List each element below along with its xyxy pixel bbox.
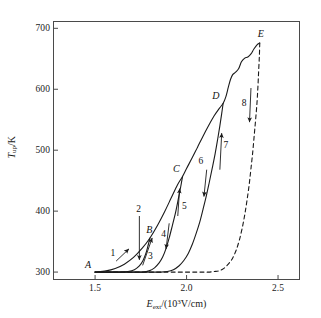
- arrow-label-4: 4: [161, 229, 166, 239]
- point-label-C: C: [173, 164, 180, 174]
- y-axis-rest: /K: [6, 136, 17, 146]
- x-axis-subscript: ext: [153, 303, 162, 311]
- direction-arrow-8: [250, 88, 251, 122]
- plot-canvas: [0, 0, 321, 318]
- arrow-label-1: 1: [110, 248, 115, 258]
- arrow-label-7: 7: [223, 140, 228, 150]
- y-axis-symbol: T: [6, 153, 17, 159]
- arrow-label-6: 6: [199, 156, 204, 166]
- x-axis-rest-open: /(10: [161, 298, 177, 309]
- chart-figure: 300400500600700 1.52.02.5 ABCDE12345678 …: [0, 0, 321, 318]
- arrow-label-5: 5: [182, 201, 187, 211]
- x-axis-title: Eext/(103V/cm): [53, 296, 300, 313]
- point-label-A: A: [85, 260, 91, 270]
- arrow-label-8: 8: [242, 98, 247, 108]
- arrow-label-3: 3: [148, 251, 153, 261]
- y-axis-title: Tup/K: [6, 112, 21, 182]
- point-label-E: E: [258, 29, 264, 39]
- direction-arrow-7: [220, 133, 222, 170]
- point-label-D: D: [212, 91, 219, 101]
- x-axis-rest-close: V/cm): [181, 298, 207, 309]
- point-label-B: B: [146, 225, 152, 235]
- direction-arrow-6: [204, 170, 207, 197]
- arrow-label-2: 2: [136, 204, 141, 214]
- y-axis-subscript: up: [10, 146, 18, 153]
- data-curve-5: [95, 43, 260, 272]
- data-curve-1: [95, 43, 260, 272]
- direction-arrow-1: [116, 249, 129, 261]
